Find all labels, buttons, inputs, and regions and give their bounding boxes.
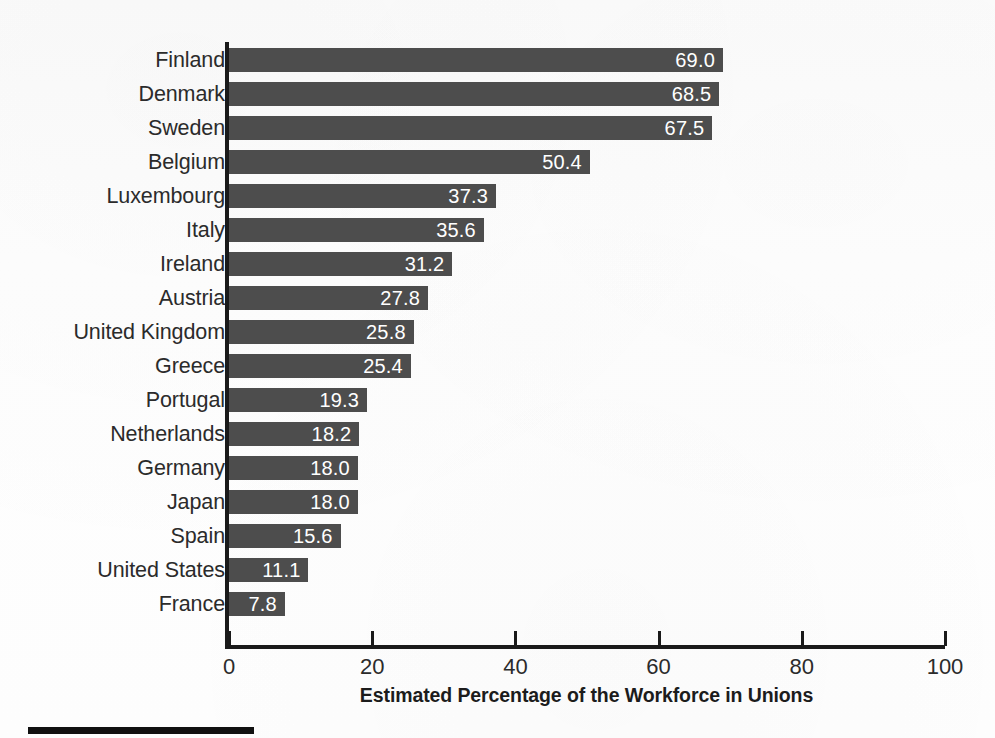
- category-label: United Kingdom: [73, 320, 225, 344]
- bar-row: Greece25.4: [0, 354, 995, 378]
- bar: 11.1: [229, 558, 308, 582]
- bar-row: Netherlands18.2: [0, 422, 995, 446]
- bar-value-label: 68.5: [672, 82, 712, 106]
- bar-value-label: 69.0: [675, 48, 715, 72]
- category-label: Portugal: [146, 388, 225, 412]
- bar: 67.5: [229, 116, 712, 140]
- bar: 69.0: [229, 48, 723, 72]
- bar-value-label: 37.3: [448, 184, 488, 208]
- category-label: Greece: [155, 354, 225, 378]
- x-axis-tick: [228, 631, 231, 646]
- bar: 35.6: [229, 218, 484, 242]
- category-label: Sweden: [148, 116, 225, 140]
- x-axis-tick-label: 60: [619, 654, 699, 680]
- category-label: Netherlands: [110, 422, 225, 446]
- bar-value-label: 25.8: [366, 320, 406, 344]
- category-label: Ireland: [160, 252, 225, 276]
- x-axis-tick-label: 80: [762, 654, 842, 680]
- bar-row: United Kingdom25.8: [0, 320, 995, 344]
- bar-row: Sweden67.5: [0, 116, 995, 140]
- bar-row: Denmark68.5: [0, 82, 995, 106]
- category-label: Belgium: [148, 150, 225, 174]
- x-axis-tick: [944, 631, 947, 646]
- bar: 18.0: [229, 490, 358, 514]
- bar-value-label: 15.6: [293, 524, 333, 548]
- bar-value-label: 27.8: [380, 286, 420, 310]
- x-axis-tick: [801, 631, 804, 646]
- category-label: Spain: [171, 524, 226, 548]
- y-axis-line: [225, 42, 229, 649]
- bar: 15.6: [229, 524, 341, 548]
- bar: 7.8: [229, 592, 285, 616]
- bar: 27.8: [229, 286, 428, 310]
- x-axis-tick: [371, 631, 374, 646]
- bar-value-label: 18.0: [310, 456, 350, 480]
- category-label: Denmark: [138, 82, 225, 106]
- bar: 18.2: [229, 422, 359, 446]
- bar-row: Ireland31.2: [0, 252, 995, 276]
- bar-value-label: 7.8: [248, 592, 276, 616]
- x-axis-tick: [658, 631, 661, 646]
- x-axis-title: Estimated Percentage of the Workforce in…: [228, 684, 945, 707]
- bar-row: Italy35.6: [0, 218, 995, 242]
- category-label: Germany: [137, 456, 225, 480]
- x-axis-tick-label: 0: [189, 654, 269, 680]
- x-axis-tick-label: 40: [475, 654, 555, 680]
- category-label: Japan: [167, 490, 225, 514]
- category-label: United States: [97, 558, 225, 582]
- bar: 68.5: [229, 82, 719, 106]
- bar-row: Finland69.0: [0, 48, 995, 72]
- horizontal-bar-chart: Finland69.0Denmark68.5Sweden67.5Belgium5…: [0, 0, 995, 738]
- bar-value-label: 35.6: [436, 218, 476, 242]
- x-axis-tick-label: 100: [905, 654, 985, 680]
- bar-value-label: 25.4: [363, 354, 403, 378]
- bar: 25.8: [229, 320, 414, 344]
- bar: 37.3: [229, 184, 496, 208]
- x-axis-tick-label: 20: [332, 654, 412, 680]
- bar-value-label: 11.1: [262, 558, 300, 582]
- bar-value-label: 19.3: [319, 388, 359, 412]
- bar-value-label: 18.0: [310, 490, 350, 514]
- category-label: Finland: [155, 48, 225, 72]
- bar-row: Japan18.0: [0, 490, 995, 514]
- bar: 31.2: [229, 252, 452, 276]
- category-label: Luxembourg: [106, 184, 225, 208]
- bar-row: Portugal19.3: [0, 388, 995, 412]
- chart-page: Finland69.0Denmark68.5Sweden67.5Belgium5…: [0, 0, 995, 738]
- category-label: Austria: [159, 286, 225, 310]
- bar-value-label: 67.5: [665, 116, 705, 140]
- bar-value-label: 31.2: [405, 252, 445, 276]
- bar: 25.4: [229, 354, 411, 378]
- bar-row: Austria27.8: [0, 286, 995, 310]
- bar-row: Spain15.6: [0, 524, 995, 548]
- bar: 50.4: [229, 150, 590, 174]
- bottom-rule: [28, 727, 254, 734]
- bar-row: France7.8: [0, 592, 995, 616]
- bar-value-label: 50.4: [542, 150, 582, 174]
- bar-row: Belgium50.4: [0, 150, 995, 174]
- bar-value-label: 18.2: [312, 422, 352, 446]
- bar-row: United States11.1: [0, 558, 995, 582]
- bar-row: Germany18.0: [0, 456, 995, 480]
- x-axis-tick: [514, 631, 517, 646]
- category-label: France: [159, 592, 225, 616]
- bar: 18.0: [229, 456, 358, 480]
- bar: 19.3: [229, 388, 367, 412]
- category-label: Italy: [186, 218, 225, 242]
- bar-row: Luxembourg37.3: [0, 184, 995, 208]
- x-axis-line: [225, 645, 945, 649]
